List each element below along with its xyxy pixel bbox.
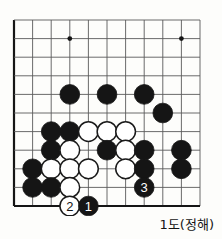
stone-black[interactable]: [153, 103, 173, 123]
black-stone-disc: [172, 159, 192, 179]
stone-black[interactable]: [41, 178, 61, 198]
move-number-label: 2: [66, 199, 73, 214]
white-stone-disc: [116, 140, 136, 160]
move-stone-black-3[interactable]: 3: [134, 178, 154, 198]
black-stone-disc: [134, 140, 154, 160]
figure-caption: 1도(정해): [0, 214, 214, 233]
white-stone-disc: [41, 159, 61, 179]
move-stone-white-2[interactable]: 2: [60, 196, 80, 216]
stone-white[interactable]: [60, 178, 80, 198]
black-stone-disc: [23, 159, 43, 179]
black-stone-disc: [60, 122, 80, 142]
stone-black[interactable]: [41, 140, 61, 160]
stone-white[interactable]: [116, 122, 136, 142]
stone-white[interactable]: [41, 159, 61, 179]
white-stone-disc: [79, 159, 99, 179]
black-stone-disc: [41, 122, 61, 142]
white-stone-disc: [60, 159, 80, 179]
stone-white[interactable]: [116, 159, 136, 179]
stone-white[interactable]: [97, 122, 117, 142]
stone-black[interactable]: [134, 85, 154, 105]
black-stone-disc: [153, 103, 173, 123]
white-stone-disc: [97, 122, 117, 142]
white-stone-disc: [116, 159, 136, 179]
move-number-label: 1: [85, 199, 92, 214]
black-stone-disc: [134, 159, 154, 179]
black-stone-disc: [60, 85, 80, 105]
stone-black[interactable]: [23, 159, 43, 179]
stone-black[interactable]: [97, 140, 117, 160]
stone-black[interactable]: [134, 140, 154, 160]
go-board[interactable]: 321: [0, 0, 222, 216]
go-problem-figure: 321 1도(정해): [0, 0, 222, 239]
stone-black[interactable]: [134, 159, 154, 179]
black-stone-disc: [134, 85, 154, 105]
black-stone-disc: [97, 85, 117, 105]
stone-white[interactable]: [79, 159, 99, 179]
black-stone-disc: [41, 140, 61, 160]
white-stone-disc: [79, 122, 99, 142]
stone-white[interactable]: [79, 122, 99, 142]
white-stone-disc: [60, 178, 80, 198]
stone-black[interactable]: [172, 159, 192, 179]
stone-black[interactable]: [23, 178, 43, 198]
go-board-canvas[interactable]: 321: [0, 0, 222, 216]
stone-white[interactable]: [60, 140, 80, 160]
black-stone-disc: [41, 178, 61, 198]
stone-black[interactable]: [60, 122, 80, 142]
stone-black[interactable]: [60, 85, 80, 105]
move-stone-black-1[interactable]: 1: [79, 196, 99, 216]
white-stone-disc: [116, 122, 136, 142]
stone-white[interactable]: [60, 159, 80, 179]
stone-black[interactable]: [172, 140, 192, 160]
move-number-label: 3: [141, 180, 148, 195]
stone-black[interactable]: [97, 85, 117, 105]
stone-black[interactable]: [41, 122, 61, 142]
black-stone-disc: [23, 178, 43, 198]
white-stone-disc: [60, 140, 80, 160]
black-stone-disc: [172, 140, 192, 160]
star-point: [179, 36, 184, 41]
stone-white[interactable]: [116, 140, 136, 160]
star-point: [67, 36, 72, 41]
black-stone-disc: [97, 140, 117, 160]
